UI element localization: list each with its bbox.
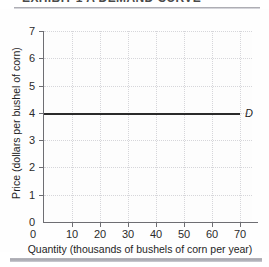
x-tick-40 [156,222,157,227]
y-tick-1 [39,195,44,196]
plot-area [44,31,252,222]
y-tick-3 [39,140,44,141]
x-tick-label-0: 0 [21,229,45,240]
gridline-v-10 [72,31,73,222]
gridline-h-2 [44,167,252,168]
x-tick-label-40: 40 [144,229,168,240]
gridline-h-3 [44,140,252,141]
gridline-v-20 [100,31,101,222]
x-tick-label-20: 20 [88,229,112,240]
x-tick-30 [128,222,129,227]
x-tick-20 [100,222,101,227]
gridline-v-30 [128,31,129,222]
clipped-header: EXHIBIT 1 A DEMAND CURVE [0,0,269,7]
y-tick-5 [39,86,44,87]
x-axis-line [43,222,258,223]
x-tick-60 [212,222,213,227]
demand-curve [44,113,240,115]
gridline-v-60 [212,31,213,222]
x-tick-label-50: 50 [172,229,196,240]
y-tick-7 [39,31,44,32]
x-tick-10 [72,222,73,227]
x-tick-50 [184,222,185,227]
x-tick-label-60: 60 [200,229,224,240]
y-tick-2 [39,167,44,168]
gridline-v-70 [240,31,241,222]
y-axis-title: Price (dollars per bushel of corn) [10,30,22,216]
gridline-v-50 [184,31,185,222]
x-tick-label-70: 70 [228,229,252,240]
y-tick-label-0: 0 [19,217,35,228]
gridline-h-6 [44,58,252,59]
gridline-v-40 [156,31,157,222]
gridline-h-7 [44,31,252,32]
gridline-h-5 [44,86,252,87]
gridline-h-1 [44,195,252,196]
chart-figure: 7 6 5 4 3 2 1 0 0 10 20 30 40 50 60 70 D… [0,9,269,252]
bottom-divider-bar [10,258,262,262]
clipped-header-text: EXHIBIT 1 A DEMAND CURVE [22,0,201,5]
demand-curve-label: D [245,107,253,119]
x-tick-label-10: 10 [60,229,84,240]
x-tick-label-30: 30 [116,229,140,240]
x-tick-70 [240,222,241,227]
y-tick-6 [39,58,44,59]
x-axis-title: Quantity (thousands of bushels of corn p… [24,243,256,255]
